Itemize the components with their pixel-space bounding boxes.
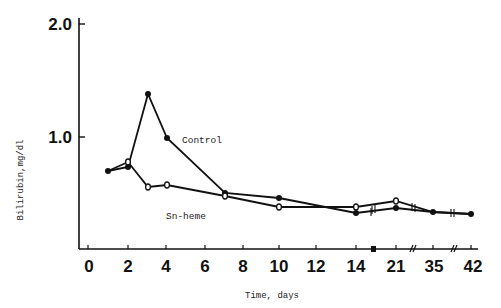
- svg-text:42: 42: [464, 257, 483, 276]
- y-axis-title: Bilirubin,mg/dl: [16, 139, 26, 220]
- svg-text:0: 0: [84, 257, 93, 276]
- snheme-label: Sn-heme: [166, 211, 206, 222]
- control-markers: [105, 91, 474, 217]
- y-tick-label-2: 2.0: [48, 15, 72, 34]
- snheme-line: [108, 162, 471, 214]
- svg-text:10: 10: [270, 257, 289, 276]
- svg-text:4: 4: [161, 257, 171, 276]
- control-line: [108, 94, 471, 214]
- svg-text:6: 6: [200, 257, 209, 276]
- x-axis-title: Time, days: [245, 291, 299, 301]
- svg-text:8: 8: [238, 257, 247, 276]
- svg-text:35: 35: [425, 257, 444, 276]
- snheme-markers: [126, 159, 399, 210]
- bilirubin-chart: 2.0 1.0 0 2 4 6 8 10 12 14 21 35 42: [0, 0, 501, 308]
- control-label: Control: [182, 135, 222, 146]
- y-tick-label-1: 1.0: [48, 128, 72, 147]
- svg-text:14: 14: [347, 257, 366, 276]
- svg-text:2: 2: [123, 257, 132, 276]
- svg-text:21: 21: [387, 257, 406, 276]
- svg-text:12: 12: [307, 257, 326, 276]
- x-tick-labels: 0 2 4 6 8 10 12 14 21 35 42: [84, 257, 482, 276]
